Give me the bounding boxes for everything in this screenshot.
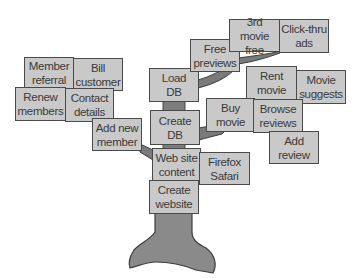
node-create-db: Create DB (150, 110, 200, 145)
node-rent-movie: Rent movie (246, 66, 297, 100)
node-add-review: Add review (269, 131, 319, 164)
node-browse-reviews: Browse reviews (253, 99, 303, 133)
node-3rd-movie-free: 3rd movie free (229, 19, 280, 52)
node-firefox-safari: Firefox Safari (199, 152, 250, 185)
node-add-new-member: Add new member (92, 118, 142, 151)
node-movie-suggests: Movie suggests (296, 70, 346, 104)
node-click-thru-ads: Click-thru ads (279, 19, 329, 53)
node-member-referral: Member referral (24, 57, 74, 89)
node-web-site-content: Web site content (152, 148, 201, 181)
node-create-website: Create website (149, 180, 199, 214)
feature-tree-diagram: Member referral Bill customer Renew memb… (0, 0, 362, 278)
node-load-db: Load DB (149, 68, 199, 102)
node-renew-members: Renew members (15, 87, 66, 121)
tree-trunk-base (129, 212, 215, 273)
node-bill-customer: Bill customer (73, 58, 123, 91)
node-buy-movie: Buy movie (206, 98, 255, 132)
node-contact-details: Contact details (65, 88, 114, 122)
